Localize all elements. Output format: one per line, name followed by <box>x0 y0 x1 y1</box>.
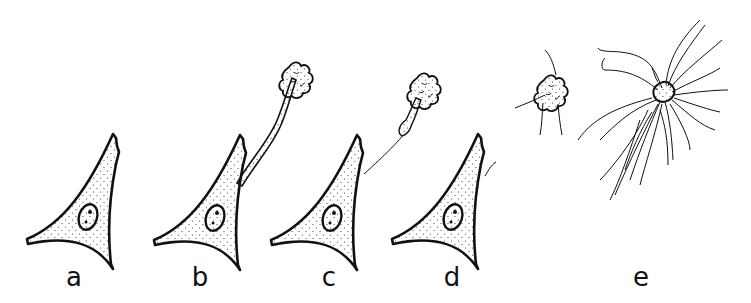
cell-d <box>392 134 496 269</box>
panel-label-a: a <box>59 262 89 292</box>
panel-label-b: b <box>185 262 215 292</box>
cluster-b <box>279 62 313 98</box>
cluster-e-small <box>515 50 568 135</box>
cluster-c <box>407 73 441 109</box>
panel-label-c: c <box>314 262 344 292</box>
thread-c <box>364 136 402 174</box>
cluster-e-radiating <box>578 20 728 200</box>
cell-a <box>27 134 119 269</box>
cell-illustration <box>0 0 751 303</box>
panel-label-d: d <box>437 262 467 292</box>
panel-label-e: e <box>626 262 656 292</box>
filament-d <box>485 162 496 176</box>
